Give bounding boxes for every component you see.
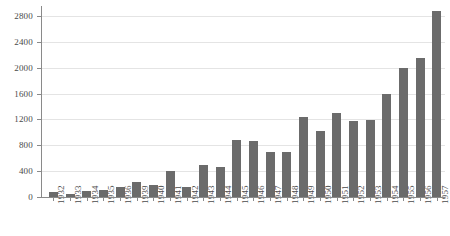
x-axis-label: 1934 <box>91 185 100 204</box>
x-axis-label: 1947 <box>274 185 283 204</box>
x-axis-label: 1950 <box>324 185 333 204</box>
x-axis-label: 1948 <box>291 185 300 204</box>
y-axis-label: 1200 <box>0 115 33 124</box>
x-axis-label: 1932 <box>57 185 66 204</box>
x-axis-label: 1955 <box>407 185 416 204</box>
x-axis-label: 1943 <box>207 185 216 204</box>
y-axis-label: 0 <box>0 193 33 202</box>
bar-chart: 040080012001600200024002800 193219331934… <box>0 0 450 236</box>
gridline <box>42 16 445 17</box>
x-axis-label: 1939 <box>141 185 150 204</box>
y-axis-label: 2400 <box>0 38 33 47</box>
x-axis-label: 1935 <box>107 185 116 204</box>
x-axis-label: 1953 <box>374 185 383 204</box>
bar <box>382 94 391 197</box>
y-axis-label: 400 <box>0 167 33 176</box>
x-axis-label: 1945 <box>241 185 250 204</box>
x-axis-label: 1946 <box>257 185 266 204</box>
x-axis-label: 1941 <box>174 185 183 204</box>
x-axis-label: 1949 <box>307 185 316 204</box>
gridline <box>42 42 445 43</box>
x-axis-label: 1933 <box>74 185 83 204</box>
x-axis-label: 1956 <box>424 185 433 204</box>
x-axis-label: 1957 <box>441 185 450 204</box>
x-axis-line <box>41 197 445 198</box>
x-axis-label: 1944 <box>224 185 233 204</box>
gridline <box>42 68 445 69</box>
bar <box>416 58 425 197</box>
y-axis-label: 2000 <box>0 64 33 73</box>
x-axis-label: 1954 <box>391 185 400 204</box>
y-axis-label: 2800 <box>0 12 33 21</box>
x-axis-label: 1940 <box>157 185 166 204</box>
bar <box>432 11 441 197</box>
bar <box>399 68 408 197</box>
x-axis-label: 1936 <box>124 185 133 204</box>
x-axis-label: 1951 <box>341 185 350 204</box>
x-axis-label: 1942 <box>191 185 200 204</box>
y-axis-line <box>41 6 42 198</box>
y-axis-label: 800 <box>0 141 33 150</box>
y-axis-label: 1600 <box>0 90 33 99</box>
x-axis-label: 1952 <box>357 185 366 204</box>
